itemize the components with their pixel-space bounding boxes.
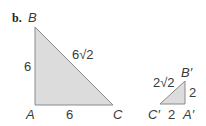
side-bc-label: 6√2 [72, 48, 94, 61]
vertex-b-prime-label: B′ [181, 66, 192, 79]
side-a-prime-b-prime-label: 2 [189, 86, 196, 99]
vertex-c-label: C [113, 108, 122, 121]
large-triangle [35, 27, 113, 105]
part-label: b. [12, 12, 22, 24]
vertex-c-prime-label: C′ [148, 108, 160, 121]
side-ac-label: 6 [66, 108, 73, 121]
side-c-prime-a-prime-label: 2 [168, 108, 175, 121]
vertex-a-label: A [26, 108, 35, 121]
vertex-a-prime-label: A′ [183, 108, 194, 121]
vertex-b-label: B [28, 11, 37, 24]
side-c-prime-b-prime-label: 2√2 [153, 76, 175, 89]
side-ab-label: 6 [24, 60, 31, 73]
